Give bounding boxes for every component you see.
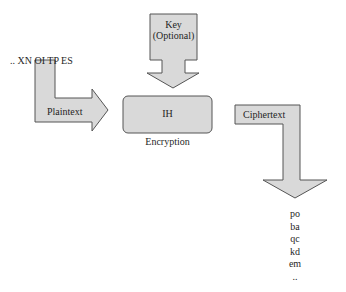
output-item: ba — [280, 221, 310, 234]
ciphertext-label: Ciphertext — [243, 109, 285, 120]
plaintext-arrow-shape — [35, 60, 108, 131]
output-item: qc — [280, 233, 310, 246]
process-label: IH — [123, 108, 212, 119]
key-label-line1: Key — [150, 19, 197, 30]
plaintext-label: Plaintext — [47, 106, 83, 117]
key-label: Key (Optional) — [150, 19, 197, 41]
process-caption: Encryption — [123, 136, 212, 147]
input-sequence: .. XN OI TP ES — [10, 55, 73, 66]
output-item: kd — [280, 246, 310, 259]
output-item: po — [280, 208, 310, 221]
output-sequence: po ba qc kd em .. — [280, 208, 310, 283]
output-item: em — [280, 258, 310, 271]
key-label-line2: (Optional) — [150, 30, 197, 41]
output-item: .. — [280, 271, 310, 284]
